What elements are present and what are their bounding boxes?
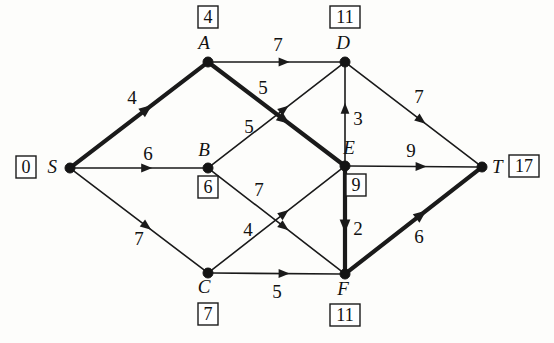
- edge-weight-b-d: 5: [244, 116, 254, 137]
- arrowhead-b-f: [277, 220, 288, 230]
- node-e[interactable]: [340, 161, 350, 171]
- distance-box-d: 11: [330, 6, 360, 28]
- edge-weight-c-e: 4: [243, 219, 253, 240]
- edge-s-a: [74, 65, 204, 165]
- node-a[interactable]: [203, 57, 213, 67]
- node-label-a: A: [196, 32, 210, 53]
- distance-value-e: 9: [352, 175, 361, 195]
- edge-weight-a-e: 5: [258, 77, 268, 98]
- graph-svg: 46775574532976 SABCDEFT 04671191117: [0, 0, 554, 343]
- node-label-c: C: [198, 276, 211, 297]
- distance-value-b: 6: [204, 177, 213, 197]
- edge-c-f: [213, 273, 340, 274]
- arrowhead-e-f: [340, 219, 351, 232]
- distance-box-e: 9: [346, 174, 366, 196]
- distance-box-a: 4: [198, 6, 218, 28]
- nodes-layer: SABCDEFT: [48, 32, 505, 299]
- arrowhead-c-e: [277, 210, 288, 220]
- edge-weight-s-a: 4: [127, 87, 137, 108]
- edge-f-t: [349, 170, 478, 271]
- edge-weight-c-f: 5: [272, 281, 282, 302]
- arrowhead-c-f: [279, 269, 290, 278]
- node-b[interactable]: [203, 163, 213, 173]
- edge-weight-e-f: 2: [353, 218, 363, 239]
- edge-weight-d-t: 7: [414, 86, 424, 107]
- distance-box-s: 0: [16, 156, 36, 178]
- node-label-t: T: [492, 156, 504, 177]
- node-label-s: S: [48, 156, 58, 177]
- distance-value-s: 0: [22, 157, 31, 177]
- distance-box-b: 6: [198, 176, 218, 198]
- distance-value-c: 7: [204, 304, 213, 324]
- distance-value-t: 17: [515, 156, 533, 176]
- node-label-b: B: [198, 139, 210, 160]
- node-t[interactable]: [477, 162, 487, 172]
- diagram-canvas: 46775574532976 SABCDEFT 04671191117: [0, 0, 554, 343]
- edge-b-f: [212, 171, 341, 271]
- node-label-e: E: [342, 137, 355, 158]
- edge-weight-a-d: 7: [273, 34, 283, 55]
- edge-weight-e-d: 3: [353, 108, 363, 129]
- arrowhead-s-b: [141, 164, 152, 173]
- arrowhead-e-d: [341, 103, 350, 114]
- distance-box-t: 17: [509, 155, 539, 177]
- edge-c-e: [212, 169, 341, 270]
- distance-box-f: 11: [330, 304, 360, 326]
- node-s[interactable]: [65, 163, 75, 173]
- arrowhead-a-d: [279, 58, 290, 67]
- edge-s-c: [74, 171, 204, 270]
- edge-weight-s-c: 7: [134, 228, 144, 249]
- distance-value-d: 11: [336, 7, 353, 27]
- arrowhead-e-t: [416, 162, 427, 171]
- distance-box-c: 7: [198, 303, 218, 325]
- node-label-f: F: [336, 278, 349, 299]
- edge-weight-s-b: 6: [143, 143, 153, 164]
- node-label-d: D: [335, 32, 350, 53]
- edge-weight-e-t: 9: [406, 140, 416, 161]
- edge-weight-f-t: 6: [414, 226, 424, 247]
- arrowhead-d-t: [414, 114, 425, 124]
- node-d[interactable]: [340, 57, 350, 67]
- distance-value-f: 11: [336, 305, 353, 325]
- edge-weight-b-f: 7: [254, 179, 264, 200]
- distance-value-a: 4: [204, 7, 213, 27]
- edge-e-t: [350, 166, 477, 167]
